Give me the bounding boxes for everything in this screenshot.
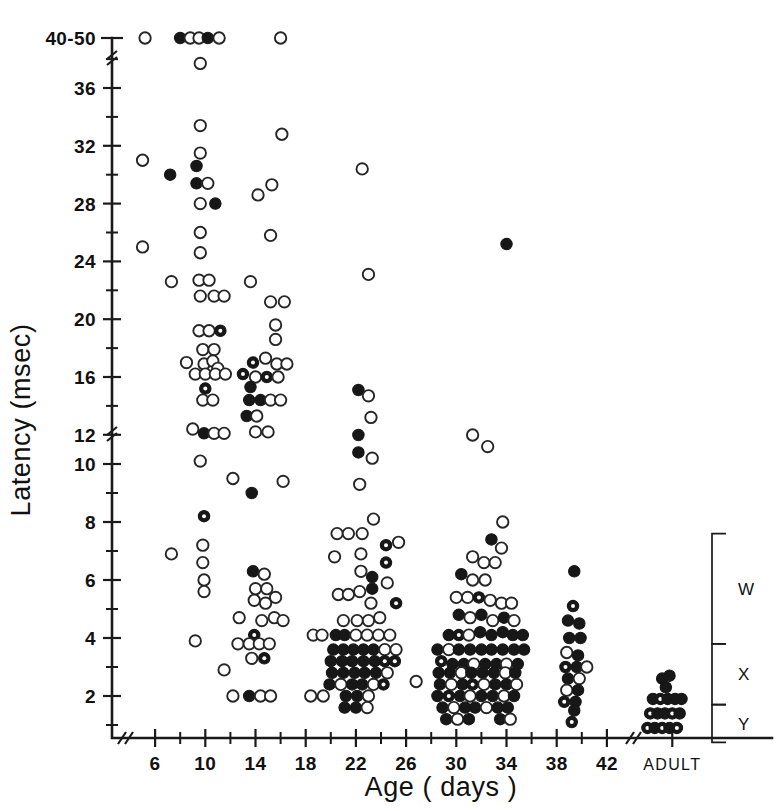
data-point-filled: [569, 566, 580, 577]
data-point-filled: [562, 615, 573, 626]
data-point-open: [251, 410, 262, 421]
data-point-open: [464, 612, 475, 623]
data-point-open: [574, 673, 585, 684]
data-point-open: [198, 574, 209, 585]
data-point-bullseye-center: [477, 595, 481, 599]
data-point-bullseye-center: [393, 659, 397, 663]
data-point-filled: [477, 667, 488, 678]
data-point-open: [137, 155, 148, 166]
data-point-open: [279, 296, 290, 307]
data-point-bullseye-center: [203, 387, 207, 391]
data-point-open: [195, 290, 206, 301]
data-point-filled: [456, 569, 467, 580]
data-point-filled: [339, 702, 350, 713]
data-point-open: [265, 296, 276, 307]
data-point-open: [166, 548, 177, 559]
data-point-open: [166, 276, 177, 287]
data-point-open: [467, 574, 478, 585]
bracket-W: [712, 534, 726, 644]
data-point-open: [249, 595, 260, 606]
data-point-open: [203, 274, 214, 285]
data-point-open: [497, 516, 508, 527]
data-point-filled: [569, 705, 580, 716]
y-tick-label-32: 32: [74, 136, 96, 157]
data-point-open: [367, 453, 378, 464]
data-point-filled: [432, 644, 443, 655]
data-point-filled: [244, 394, 255, 405]
bracket-label-Y: Y: [738, 715, 749, 734]
data-point-bullseye-center: [571, 604, 575, 608]
bracket-label-X: X: [738, 665, 749, 684]
data-point-filled: [508, 690, 519, 701]
data-point-open: [227, 690, 238, 701]
data-point-open: [335, 679, 346, 690]
data-point-filled: [191, 160, 202, 171]
data-point-open: [277, 615, 288, 626]
data-point-open: [451, 592, 462, 603]
data-point-filled: [359, 667, 370, 678]
data-point-open: [350, 629, 361, 640]
data-point-open: [250, 426, 261, 437]
data-point-filled: [437, 702, 448, 713]
data-point-open: [356, 163, 367, 174]
data-point-open: [384, 629, 395, 640]
data-point-bullseye-center: [563, 665, 567, 669]
data-point-open: [197, 540, 208, 551]
data-point-open: [195, 227, 206, 238]
data-point-filled: [351, 690, 362, 701]
data-point-open: [275, 394, 286, 405]
y-tick-label-28: 28: [74, 194, 96, 215]
data-point-open: [197, 557, 208, 568]
data-point-open: [410, 676, 421, 687]
data-point-filled: [210, 198, 221, 209]
y-tick-label-40-50: 40-50: [45, 28, 96, 49]
data-point-open: [281, 358, 292, 369]
data-point-open: [338, 615, 349, 626]
bracket-X: [712, 644, 726, 705]
data-point-filled: [453, 609, 464, 620]
y-tick-label-2: 2: [85, 686, 96, 707]
data-point-open: [208, 344, 219, 355]
data-point-open: [511, 679, 522, 690]
data-point-open: [195, 247, 206, 258]
data-point-open: [363, 390, 374, 401]
data-point-open: [351, 615, 362, 626]
data-point-open: [266, 179, 277, 190]
data-point-bullseye-center: [562, 700, 566, 704]
data-point-bullseye-center: [262, 656, 266, 660]
data-point-open: [232, 638, 243, 649]
data-point-open: [478, 557, 489, 568]
x-tick-label-34: 34: [496, 753, 518, 774]
bracket-label-W: W: [738, 580, 754, 599]
data-point-open: [190, 635, 201, 646]
x-tick-label-26: 26: [395, 753, 417, 774]
data-point-filled: [444, 667, 455, 678]
data-point-open: [220, 368, 231, 379]
data-point-filled: [490, 679, 501, 690]
y-tick-label-20: 20: [74, 309, 96, 330]
data-point-filled: [326, 667, 337, 678]
data-point-open: [275, 32, 286, 43]
data-point-open: [213, 32, 224, 43]
y-tick-label-6: 6: [85, 570, 96, 591]
data-point-filled: [486, 629, 497, 640]
data-point-bullseye-center: [457, 633, 461, 637]
data-point-filled: [564, 632, 575, 643]
data-point-bullseye-center: [447, 694, 451, 698]
data-point-filled: [486, 644, 497, 655]
y-tick-label-24: 24: [74, 251, 96, 272]
data-point-filled: [518, 644, 529, 655]
data-point-open: [265, 230, 276, 241]
data-point-open: [195, 120, 206, 131]
data-point-open: [218, 664, 229, 675]
data-point-open: [365, 598, 376, 609]
data-point-bullseye-center: [384, 543, 388, 547]
data-point-bullseye-center: [382, 682, 386, 686]
data-point-open: [368, 513, 379, 524]
data-point-open: [355, 548, 366, 559]
data-point-open: [262, 426, 273, 437]
data-point-open: [393, 537, 404, 548]
data-point-open: [137, 241, 148, 252]
data-point-bullseye-center: [383, 659, 387, 663]
data-point-filled: [370, 667, 381, 678]
